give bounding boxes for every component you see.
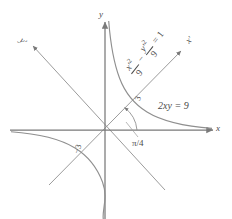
conic-minus-sign: − [135,54,146,64]
rotation-angle-label: π/4 [132,139,144,148]
y-axis-label: y [99,10,103,19]
x-prime-axis [49,51,181,185]
curve-equation-leader [151,110,157,114]
math-figure: x y x' y' 2xy = 9 x'2 9 − y'2 9 = 1 π/4 … [0,0,232,219]
curve-equation-text: 2xy = 9 [158,100,189,111]
curve-equation-label: 2xy = 9 [158,101,189,111]
angle-arc [125,108,138,131]
x-axis-label: x [216,124,220,133]
figure-canvas [0,0,232,219]
